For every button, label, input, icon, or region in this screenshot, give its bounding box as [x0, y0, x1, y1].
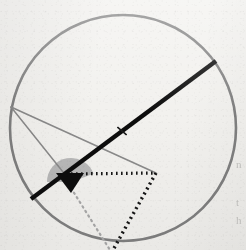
- geometry-diagram: [0, 0, 246, 250]
- paper-background: [0, 0, 246, 250]
- figure-root: nth: [0, 0, 246, 250]
